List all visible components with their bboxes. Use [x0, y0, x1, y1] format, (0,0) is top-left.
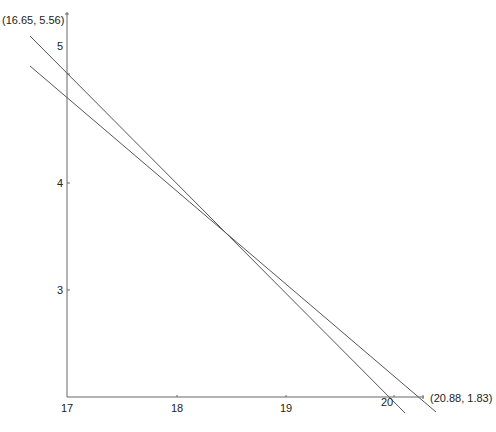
corner-label-top-left: (16.65, 5.56): [2, 14, 64, 26]
corner-label-bottom-right: (20.88, 1.83): [430, 392, 492, 404]
x-tick-label-20: 20: [381, 396, 393, 408]
x-tick-label-18: 18: [171, 402, 183, 414]
x-tick-label-19: 19: [280, 402, 292, 414]
series-line-2: [30, 66, 436, 412]
y-tick-label-5: 5: [57, 40, 63, 52]
series-line-1: [30, 36, 405, 413]
chart-plot: [0, 0, 496, 432]
y-tick-label-3: 3: [57, 284, 63, 296]
x-tick-label-17: 17: [61, 402, 73, 414]
y-tick-label-4: 4: [57, 177, 63, 189]
